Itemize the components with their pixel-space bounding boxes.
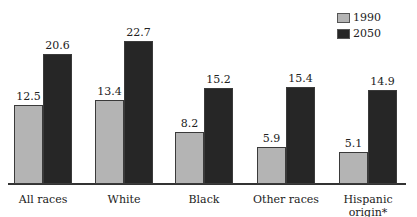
bar-2050-all-races <box>43 54 72 184</box>
value-label: 15.2 <box>199 74 239 86</box>
category-label: Black <box>159 193 249 206</box>
value-label: 22.7 <box>119 27 159 39</box>
bar-2050-white <box>124 41 153 184</box>
value-label: 20.6 <box>38 40 78 52</box>
bar-2050-other-races <box>286 87 315 184</box>
bar-1990-all-races <box>14 105 43 184</box>
bar-1990-white <box>95 100 124 184</box>
legend-label-1990: 1990 <box>353 12 381 24</box>
legend-label-2050: 2050 <box>353 28 381 40</box>
value-label: 15.4 <box>281 73 321 85</box>
grouped-bar-chart: 1990 2050 12.520.6All races13.422.7White… <box>0 0 417 217</box>
bar-2050-black <box>204 88 233 184</box>
bar-1990-other-races <box>257 147 286 184</box>
legend-swatch-1990 <box>337 13 350 23</box>
bar-2050-hispanic-origin <box>368 90 397 184</box>
value-label: 14.9 <box>363 76 403 88</box>
bar-1990-hispanic-origin <box>339 152 368 184</box>
category-label: Other races <box>241 193 331 206</box>
category-label: White <box>79 193 169 206</box>
category-label: Hispanic origin* <box>323 193 413 217</box>
legend-swatch-2050 <box>337 29 350 39</box>
bar-1990-black <box>175 132 204 184</box>
category-label: All races <box>0 193 88 206</box>
